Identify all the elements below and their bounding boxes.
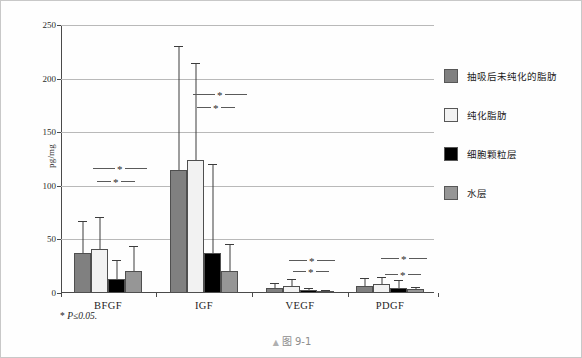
legend-item[interactable]: 水层 [444,186,578,200]
legend-swatch [444,69,458,83]
significance-asterisk: * [399,254,409,265]
y-tick-mark [57,25,61,26]
x-axis-group-label: PDGF [351,300,429,311]
error-bar [195,63,196,161]
y-tick-label: 100 [43,181,57,191]
legend-item[interactable]: 纯化脂肪 [444,108,578,122]
bar[interactable] [108,279,125,293]
significance-asterisk: * [306,267,316,278]
error-bar-cap [287,279,296,280]
bar-chart-figure: pg/mg 050100150200250 BFGFIGFVEGFPDGF **… [1,1,582,358]
figure-page: pg/mg 050100150200250 BFGFIGFVEGFPDGF **… [0,0,582,358]
y-tick-label: 150 [43,127,57,137]
error-bar [116,260,117,279]
x-tick-mark [156,293,157,297]
significance-asterisk: * [215,90,225,101]
x-tick-mark [61,293,62,297]
legend-swatch [444,147,458,161]
bar[interactable] [221,271,238,294]
error-bar-cap [411,287,420,288]
error-bar-cap [208,164,217,165]
bar[interactable] [300,290,317,293]
significance-marker: * [385,270,421,279]
bar-slot [91,25,108,293]
bar[interactable] [373,284,390,293]
bar-group: VEGF [261,25,339,293]
plot-area: 050100150200250 BFGFIGFVEGFPDGF ******** [61,25,434,293]
significance-marker: * [381,254,427,263]
y-axis-line [61,25,62,293]
legend-swatch [444,186,458,200]
bar-group-bars [69,25,147,293]
error-bar [381,277,382,285]
significance-asterisk: * [398,270,408,281]
x-tick-mark [252,293,253,297]
significance-line-right [316,271,329,272]
bar[interactable] [317,291,334,293]
bar-slot [204,25,221,293]
error-bar-cap [304,288,313,289]
significance-line-right [225,94,247,95]
bar-slot [221,25,238,293]
legend-label: 抽吸后未纯化的脂肪 [467,69,557,83]
bar-group: BFGF [69,25,147,293]
bar-slot [266,25,283,293]
y-tick-mark [57,132,61,133]
bar-slot [187,25,204,293]
significance-line-right [221,107,235,108]
significance-line-left [289,260,307,261]
y-tick-mark [57,239,61,240]
triangle-icon: ▲ [273,338,279,347]
y-tick-label: 250 [43,20,57,30]
bar[interactable] [283,286,300,294]
significance-asterisk: * [115,164,125,175]
y-tick-mark [57,79,61,80]
error-bar-cap [191,63,200,64]
error-bar [82,221,83,253]
error-bar-cap [360,278,369,279]
significance-asterisk: * [111,177,121,188]
significance-line-left [197,107,211,108]
bar[interactable] [187,160,204,293]
bar[interactable] [266,288,283,293]
bar-group: IGF [165,25,243,293]
legend-label: 水层 [467,186,487,200]
bar-slot [300,25,317,293]
bar-slot [283,25,300,293]
significance-marker: * [193,90,247,99]
bar[interactable] [204,253,221,293]
footnote-asterisk: * [60,311,65,321]
bar-slot [74,25,91,293]
error-bar-cap [95,217,104,218]
figure-caption-text: 图 9-1 [282,336,312,347]
significance-line-left [93,168,115,169]
bar[interactable] [390,288,407,293]
legend-item[interactable]: 细胞颗粒层 [444,147,578,161]
y-tick-mark [57,186,61,187]
x-tick-mark [348,293,349,297]
error-bar-cap [112,260,121,261]
significance-marker: * [197,103,235,112]
significance-marker: * [293,267,329,276]
footnote: * P≤0.05. [60,311,97,321]
legend-item[interactable]: 抽吸后未纯化的脂肪 [444,69,578,83]
error-bar [398,280,399,288]
legend-label: 纯化脂肪 [467,108,507,122]
bar-group-bars [261,25,339,293]
bar[interactable] [170,170,187,293]
bar[interactable] [407,289,424,293]
y-tick-label: 200 [43,74,57,84]
bar-slot [317,25,334,293]
bar[interactable] [91,249,108,293]
significance-marker: * [289,256,335,265]
bar[interactable] [74,253,91,293]
bar[interactable] [356,286,373,294]
significance-line-left [381,258,399,259]
error-bar-cap [225,244,234,245]
significance-marker: * [97,177,135,186]
bar-group-bars [165,25,243,293]
significance-line-left [385,274,398,275]
bar-slot [170,25,187,293]
error-bar [364,278,365,286]
bar[interactable] [125,271,142,294]
